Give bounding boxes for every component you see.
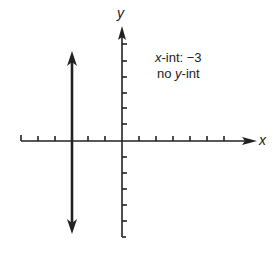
x-axis [21, 135, 250, 141]
y-axis [122, 32, 127, 237]
annotation-no-text: no [157, 66, 175, 81]
x-axis-label: x [259, 132, 266, 148]
annotation-x-int-text: -int: −3 [162, 50, 202, 65]
annotation-x-intercept: x-int: −3 [155, 50, 202, 65]
graph-figure [0, 0, 278, 253]
annotation-y-int-text: -int [182, 66, 200, 81]
annotation-no-y-intercept: no y-int [157, 66, 200, 81]
y-axis-label: y [117, 5, 124, 21]
vertical-line-x-neg3 [67, 51, 77, 234]
